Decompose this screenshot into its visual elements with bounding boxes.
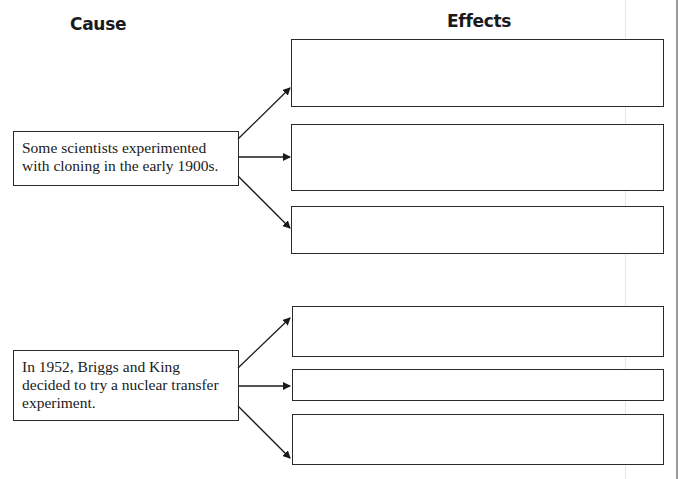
arrow-2-1	[238, 318, 290, 368]
connector-arrows	[0, 0, 682, 479]
arrow-1-3	[238, 176, 290, 228]
arrow-1-1	[238, 88, 290, 139]
arrow-2-3	[238, 406, 290, 458]
